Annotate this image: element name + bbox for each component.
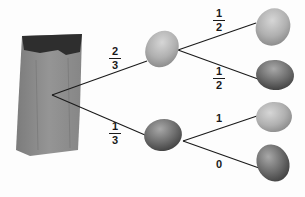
denominator: 2 <box>212 80 226 91</box>
lemon-icon <box>250 3 297 52</box>
lime-icon <box>255 58 295 91</box>
denominator: 3 <box>108 60 122 71</box>
denominator: 3 <box>108 135 122 146</box>
numerator: 2 <box>108 46 122 57</box>
denominator: 2 <box>212 22 226 33</box>
probability-label-lime-lemon: 1 <box>212 112 226 124</box>
lemon-icon <box>255 100 293 133</box>
probability-label-lemon-first: 2 3 <box>108 46 122 71</box>
paper-bag-icon <box>16 34 82 156</box>
numerator: 1 <box>108 121 122 132</box>
probability-label-lime-first: 1 3 <box>108 121 122 146</box>
numerator: 1 <box>212 66 226 77</box>
numerator: 1 <box>212 8 226 19</box>
probability-label-lime-lime: 0 <box>212 158 226 170</box>
probability-label-lemon-lemon: 1 2 <box>212 8 226 33</box>
tree-graphic <box>0 0 305 197</box>
lime-icon <box>250 139 295 187</box>
lemon-icon <box>139 25 186 74</box>
probability-tree-diagram: 2 3 1 3 1 2 1 2 1 0 <box>0 0 305 197</box>
probability-label-lemon-lime: 1 2 <box>212 66 226 91</box>
lime-icon <box>142 116 185 154</box>
